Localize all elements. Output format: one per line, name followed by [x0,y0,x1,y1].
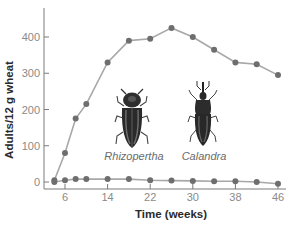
y-axis-title: Adults/12 g wheat [3,61,15,159]
x-tick-label: 38 [229,191,241,203]
calandra-label: Calandra [182,150,227,162]
data-point-calandra [62,177,68,183]
data-point-calandra [169,178,175,184]
data-point-calandra [105,176,111,182]
y-tick-label: 300 [22,67,40,79]
series-markers [51,25,281,187]
data-point-calandra [275,181,281,187]
calandra-beetle-icon [188,81,218,146]
data-point-rhizopertha [73,116,79,122]
data-point-rhizopertha [169,25,175,31]
x-tick-label: 6 [62,191,68,203]
data-point-rhizopertha [275,72,281,78]
data-point-rhizopertha [232,59,238,65]
data-point-rhizopertha [211,47,217,53]
y-tick-label: 200 [22,104,40,116]
data-point-rhizopertha [190,34,196,40]
data-point-rhizopertha [254,61,260,67]
data-point-calandra [126,176,132,182]
tick-labels: 010020030040061422303846 [22,31,284,203]
x-axis-title: Time (weeks) [135,208,207,220]
x-tick-label: 30 [187,191,199,203]
data-point-calandra [232,178,238,184]
y-tick-label: 400 [22,31,40,43]
rhizopertha-beetle-icon [115,89,149,148]
data-point-rhizopertha [62,150,68,156]
data-point-calandra [83,176,89,182]
data-point-calandra [211,178,217,184]
y-tick-label: 0 [34,176,40,188]
data-point-calandra [51,179,57,185]
data-point-calandra [254,179,260,185]
data-point-calandra [147,177,153,183]
data-point-rhizopertha [126,38,132,44]
data-point-calandra [190,178,196,184]
data-point-rhizopertha [147,36,153,42]
rhizopertha-label: Rhizopertha [104,150,163,162]
data-point-calandra [73,176,79,182]
line-chart: 010020030040061422303846 Rhizopertha Cal… [0,0,295,229]
data-point-rhizopertha [105,59,111,65]
x-tick-label: 46 [272,191,284,203]
x-tick-label: 14 [101,191,113,203]
axes [44,8,286,189]
data-point-rhizopertha [83,101,89,107]
x-tick-label: 22 [144,191,156,203]
y-tick-label: 100 [22,140,40,152]
